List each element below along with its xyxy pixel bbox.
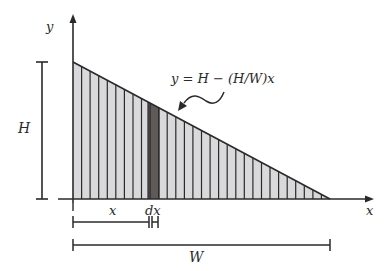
dx-label: dx [145,203,161,218]
width-label: W [189,249,205,265]
x-axis-label: x [366,203,374,218]
x-distance-label: x [109,203,117,218]
y-axis-label: y [45,19,54,34]
diagram-container: y x H x dx W y = H − (H/W)x [0,0,391,271]
squiggle-arrowhead-icon [178,101,187,111]
equation-label: y = H − (H/W)x [170,71,275,86]
y-axis-arrowhead-icon [70,14,77,23]
x-axis-arrowhead-icon [365,196,374,203]
triangle-diagram: y x H x dx W y = H − (H/W)x [0,0,391,271]
height-dimension [36,62,48,199]
squiggle-arrow [184,92,224,103]
height-label: H [17,120,31,136]
